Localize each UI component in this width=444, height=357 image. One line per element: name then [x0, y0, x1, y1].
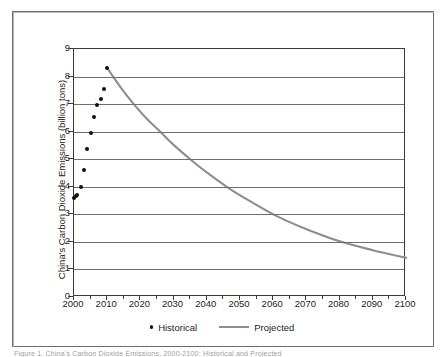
x-axis-minor-tick: [222, 296, 223, 299]
emissions-chart: China's Carbon Dioxide Emissions (billio…: [0, 0, 444, 357]
x-axis-tick: [73, 296, 74, 300]
gridline-y: [74, 77, 404, 78]
y-axis-tick: [68, 76, 73, 77]
data-point-historical: [89, 131, 93, 135]
gridline-y: [74, 242, 404, 243]
x-axis-minor-tick: [90, 296, 91, 299]
x-axis-minor-tick: [189, 296, 190, 299]
chart-legend: HistoricalProjected: [0, 320, 444, 334]
y-axis-tick: [68, 158, 73, 159]
y-axis-tick: [68, 241, 73, 242]
x-axis-minor-tick: [388, 296, 389, 299]
gridline-y: [74, 132, 404, 133]
y-axis-tick: [68, 103, 73, 104]
legend-label: Projected: [254, 322, 294, 333]
x-axis-tick-label: 2100: [385, 299, 425, 309]
gridline-y: [74, 214, 404, 215]
x-axis-tick: [405, 296, 406, 300]
y-axis-title-wrapper: China's Carbon Dioxide Emissions (billio…: [30, 60, 44, 290]
gridline-y: [74, 269, 404, 270]
data-point-historical: [102, 87, 106, 91]
data-point-historical: [79, 185, 83, 189]
y-axis-tick: [68, 186, 73, 187]
x-axis-tick: [305, 296, 306, 300]
x-axis-tick: [272, 296, 273, 300]
projected-curve: [74, 49, 406, 297]
gridline-y: [74, 159, 404, 160]
legend-line-icon: [219, 326, 249, 328]
x-axis-tick: [372, 296, 373, 300]
x-axis-minor-tick: [322, 296, 323, 299]
x-axis-minor-tick: [256, 296, 257, 299]
legend-entry: Projected: [219, 322, 294, 333]
x-axis-tick: [106, 296, 107, 300]
gridline-y: [74, 187, 404, 188]
x-axis-tick: [339, 296, 340, 300]
plot-area: [73, 48, 405, 296]
x-axis-minor-tick: [289, 296, 290, 299]
y-axis-tick: [68, 268, 73, 269]
legend-entry: Historical: [150, 322, 198, 333]
data-point-historical: [99, 97, 103, 101]
legend-label: Historical: [158, 322, 197, 333]
figure-page: Figure 1. China's Carbon Dioxide Emissio…: [0, 0, 444, 357]
data-point-historical: [82, 168, 86, 172]
x-axis-tick: [206, 296, 207, 300]
x-axis-minor-tick: [123, 296, 124, 299]
x-axis-minor-tick: [156, 296, 157, 299]
x-axis-minor-tick: [355, 296, 356, 299]
x-axis-tick: [239, 296, 240, 300]
legend-dot-icon: [150, 325, 154, 329]
y-axis-tick: [68, 213, 73, 214]
x-axis-tick: [139, 296, 140, 300]
y-axis-tick: [68, 48, 73, 49]
gridline-y: [74, 104, 404, 105]
x-axis-tick: [173, 296, 174, 300]
x-axis-labels: 2000201020202030204020502060207020802090…: [0, 299, 444, 313]
y-axis-tick: [68, 131, 73, 132]
